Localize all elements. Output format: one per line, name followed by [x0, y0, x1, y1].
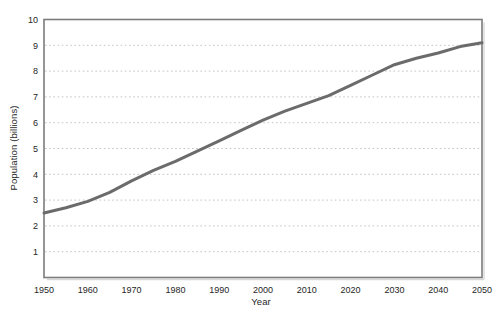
y-tick-label: 4 — [33, 170, 38, 180]
x-tick-label: 2020 — [341, 285, 361, 295]
x-axis-title: Year — [251, 296, 271, 307]
x-tick-label: 2050 — [472, 285, 492, 295]
y-tick-label: 10 — [28, 15, 38, 25]
x-tick-label: 2030 — [384, 285, 404, 295]
y-tick-label: 6 — [33, 118, 38, 128]
x-tick-label: 2000 — [253, 285, 273, 295]
y-axis-title: Population (billions) — [8, 105, 19, 190]
population-growth-chart: 1234567891019501960197019801990200020102… — [0, 0, 500, 315]
y-tick-label: 2 — [33, 221, 38, 231]
y-tick-label: 9 — [33, 41, 38, 51]
y-tick-label: 5 — [33, 144, 38, 154]
plot-area: 1234567891019501960197019801990200020102… — [0, 0, 500, 315]
y-tick-label: 8 — [33, 66, 38, 76]
y-tick-label: 1 — [33, 247, 38, 257]
x-tick-label: 1980 — [165, 285, 185, 295]
x-tick-label: 1950 — [34, 285, 54, 295]
x-tick-label: 1970 — [122, 285, 142, 295]
x-tick-label: 1990 — [209, 285, 229, 295]
y-tick-label: 7 — [33, 92, 38, 102]
x-tick-label: 2040 — [428, 285, 448, 295]
x-tick-label: 2010 — [297, 285, 317, 295]
population-line — [44, 43, 482, 213]
y-tick-label: 3 — [33, 195, 38, 205]
x-tick-label: 1960 — [78, 285, 98, 295]
